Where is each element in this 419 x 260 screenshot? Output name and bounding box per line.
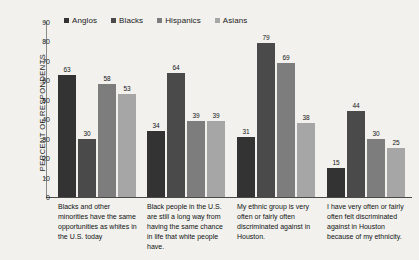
bar-item: 44 bbox=[347, 22, 365, 197]
category-caption: Blacks and other minorities have the sam… bbox=[58, 202, 138, 242]
category-caption: My ethnic group is very often or fairly … bbox=[237, 202, 313, 242]
bar-item: 58 bbox=[98, 22, 116, 197]
bar-hispanics bbox=[367, 139, 385, 197]
bar-value-label: 39 bbox=[212, 112, 219, 120]
bar-value-label: 64 bbox=[172, 64, 179, 72]
bar-value-label: 79 bbox=[262, 34, 269, 42]
bar-hispanics bbox=[277, 63, 295, 197]
bar-group: 63305853 bbox=[58, 22, 136, 197]
bar-item: 39 bbox=[187, 22, 205, 197]
bar-value-label: 25 bbox=[392, 139, 399, 147]
bar-value-label: 38 bbox=[302, 114, 309, 122]
bar-value-label: 30 bbox=[83, 130, 90, 138]
bar-anglos bbox=[237, 137, 255, 197]
bar-item: 79 bbox=[257, 22, 275, 197]
bar-blacks bbox=[78, 139, 96, 197]
bar-value-label: 39 bbox=[192, 112, 199, 120]
bar-anglos bbox=[147, 131, 165, 197]
bar-item: 31 bbox=[237, 22, 255, 197]
bar-item: 69 bbox=[277, 22, 295, 197]
bar-hispanics bbox=[98, 84, 116, 197]
bar-value-label: 58 bbox=[103, 75, 110, 83]
bar-blacks bbox=[167, 73, 185, 197]
bar-anglos bbox=[327, 168, 345, 197]
bar-value-label: 63 bbox=[63, 66, 70, 74]
bar-asians bbox=[387, 148, 405, 197]
bar-group: 15443025 bbox=[327, 22, 405, 197]
bar-group: 31796938 bbox=[237, 22, 315, 197]
bar-item: 30 bbox=[78, 22, 96, 197]
bar-hispanics bbox=[187, 121, 205, 197]
bar-blacks bbox=[257, 43, 275, 197]
bar-group: 34643939 bbox=[147, 22, 225, 197]
bar-blacks bbox=[347, 111, 365, 197]
grouped-bar-chart: Anglos Blacks Hispanics Asians PERCENT O… bbox=[0, 0, 419, 260]
plot-area: 63305853346439393179693815443025 bbox=[47, 22, 412, 197]
bar-value-label: 34 bbox=[152, 122, 159, 130]
bar-item: 53 bbox=[118, 22, 136, 197]
bar-value-label: 30 bbox=[372, 130, 379, 138]
bar-value-label: 15 bbox=[332, 159, 339, 167]
bar-value-label: 31 bbox=[242, 128, 249, 136]
bar-item: 34 bbox=[147, 22, 165, 197]
bar-item: 39 bbox=[207, 22, 225, 197]
bar-item: 38 bbox=[297, 22, 315, 197]
category-caption: I have very often or fairly often felt d… bbox=[327, 202, 411, 242]
bar-item: 64 bbox=[167, 22, 185, 197]
bar-asians bbox=[207, 121, 225, 197]
bar-item: 63 bbox=[58, 22, 76, 197]
bar-asians bbox=[118, 94, 136, 197]
bar-value-label: 44 bbox=[352, 102, 359, 110]
bar-value-label: 69 bbox=[282, 54, 289, 62]
bar-item: 15 bbox=[327, 22, 345, 197]
bar-item: 30 bbox=[367, 22, 385, 197]
bar-asians bbox=[297, 123, 315, 197]
bar-item: 25 bbox=[387, 22, 405, 197]
category-caption: Black people in the U.S. are still a lon… bbox=[147, 202, 229, 252]
bar-value-label: 53 bbox=[123, 85, 130, 93]
y-axis-tick-label: 0 bbox=[22, 194, 50, 201]
bar-anglos bbox=[58, 75, 76, 198]
category-captions: Blacks and other minorities have the sam… bbox=[47, 202, 415, 254]
x-axis-line bbox=[46, 197, 412, 198]
